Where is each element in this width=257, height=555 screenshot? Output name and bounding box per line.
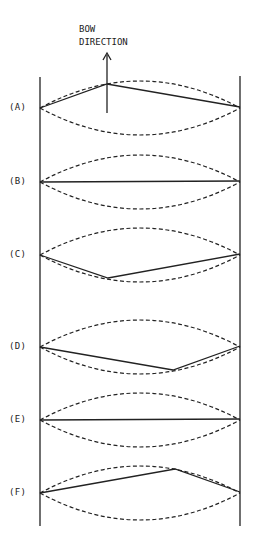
upper-envelope (40, 155, 240, 182)
upper-envelope (40, 228, 240, 255)
row-label: (A) (9, 102, 26, 112)
upper-envelope (40, 393, 240, 420)
row-label: (F) (9, 487, 26, 497)
lower-envelope (40, 182, 240, 209)
row-label: (C) (9, 249, 26, 259)
row-label: (E) (9, 414, 26, 424)
upper-envelope (40, 81, 240, 108)
string-shape (40, 254, 240, 278)
lower-envelope (40, 420, 240, 447)
lower-envelope (40, 108, 240, 135)
string-shape (40, 419, 240, 420)
upper-envelope (40, 466, 240, 493)
row-label: (B) (9, 176, 26, 186)
string-shape (40, 346, 240, 370)
upper-envelope (40, 320, 240, 347)
string-shape (40, 469, 240, 493)
lower-envelope (40, 493, 240, 520)
string-vibration-diagram (0, 0, 257, 555)
row-label: (D) (9, 341, 26, 351)
lower-envelope (40, 347, 240, 374)
string-shape (40, 181, 240, 182)
string-shape (40, 84, 240, 108)
